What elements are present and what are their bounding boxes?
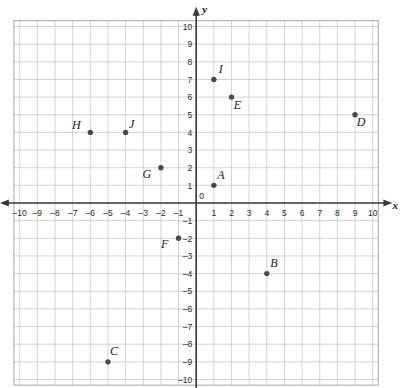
y-tick-label: 2 bbox=[187, 163, 192, 173]
origin-label: 0 bbox=[199, 191, 204, 201]
x-tick-label: –8 bbox=[50, 208, 60, 218]
x-axis-arrow-left bbox=[0, 199, 9, 206]
point-label: A bbox=[216, 168, 225, 182]
y-tick-label: 10 bbox=[183, 22, 193, 32]
x-tick-label: 7 bbox=[317, 208, 322, 218]
y-tick-label: –3 bbox=[183, 251, 193, 261]
coordinate-plane-graph: –10–9–8–7–6–5–4–3–2–112345678910 1098765… bbox=[0, 0, 400, 388]
y-tick-label: 5 bbox=[187, 110, 192, 120]
y-tick-label: 1 bbox=[187, 181, 192, 191]
x-tick-label: 8 bbox=[335, 208, 340, 218]
x-tick-label: 6 bbox=[300, 208, 305, 218]
y-tick-label: –10 bbox=[178, 375, 192, 385]
point-marker bbox=[158, 165, 163, 170]
y-tick-label: –9 bbox=[183, 357, 193, 367]
x-tick-label: –7 bbox=[68, 208, 78, 218]
point-marker bbox=[264, 271, 269, 276]
y-tick-label: 6 bbox=[187, 92, 192, 102]
point-label: E bbox=[233, 98, 242, 112]
point-marker bbox=[105, 359, 110, 364]
plot-point-b: B bbox=[264, 256, 278, 277]
y-axis-arrow-up bbox=[193, 7, 200, 16]
x-tick-label: –10 bbox=[13, 208, 27, 218]
origin-zero-label: 0 bbox=[199, 191, 204, 201]
x-tick-label: 3 bbox=[247, 208, 252, 218]
plot-point-c: C bbox=[105, 344, 119, 365]
point-label: J bbox=[129, 117, 135, 131]
x-tick-label: –6 bbox=[86, 208, 96, 218]
x-tick-label: 9 bbox=[353, 208, 358, 218]
x-tick-label: 4 bbox=[264, 208, 269, 218]
point-label: I bbox=[218, 62, 224, 76]
y-tick-label: –1 bbox=[183, 216, 193, 226]
point-label: C bbox=[110, 344, 119, 358]
point-marker bbox=[211, 183, 216, 188]
x-tick-label: 5 bbox=[282, 208, 287, 218]
y-tick-label: –8 bbox=[183, 339, 193, 349]
point-marker bbox=[123, 130, 128, 135]
point-label: D bbox=[356, 115, 366, 129]
point-label: H bbox=[71, 118, 82, 132]
x-axis-tick-labels: –10–9–8–7–6–5–4–3–2–112345678910 bbox=[13, 208, 378, 218]
plot-point-d: D bbox=[352, 112, 365, 129]
x-axis-label: x bbox=[392, 199, 399, 211]
y-tick-label: 9 bbox=[187, 39, 192, 49]
x-tick-label: 10 bbox=[368, 208, 378, 218]
x-tick-label: –5 bbox=[103, 208, 113, 218]
point-marker bbox=[88, 130, 93, 135]
x-tick-label: –2 bbox=[156, 208, 166, 218]
y-tick-label: –4 bbox=[183, 269, 193, 279]
y-tick-label: –2 bbox=[183, 234, 193, 244]
x-axis-arrow-right bbox=[383, 199, 392, 206]
y-tick-label: 4 bbox=[187, 128, 192, 138]
x-tick-label: 1 bbox=[211, 208, 216, 218]
point-marker bbox=[176, 236, 181, 241]
point-label: F bbox=[160, 237, 169, 251]
point-label: G bbox=[143, 167, 152, 181]
x-tick-label: 2 bbox=[229, 208, 234, 218]
point-marker bbox=[211, 77, 216, 82]
y-tick-label: 7 bbox=[187, 75, 192, 85]
y-tick-label: –5 bbox=[183, 286, 193, 296]
x-tick-label: –9 bbox=[33, 208, 43, 218]
axes bbox=[0, 7, 392, 388]
y-tick-label: 3 bbox=[187, 145, 192, 155]
y-tick-label: 8 bbox=[187, 57, 192, 67]
x-tick-label: –4 bbox=[121, 208, 131, 218]
x-tick-label: –3 bbox=[139, 208, 149, 218]
y-axis-label: y bbox=[200, 3, 207, 15]
point-label: B bbox=[270, 256, 278, 270]
y-tick-label: –6 bbox=[183, 304, 193, 314]
axis-names: xy bbox=[200, 3, 398, 211]
y-tick-label: –7 bbox=[183, 322, 193, 332]
